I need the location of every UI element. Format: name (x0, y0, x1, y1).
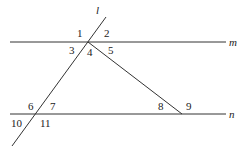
angle-label-10: 10 (11, 117, 23, 129)
geometry-diagram: l m n 1 2 3 4 5 6 7 8 9 10 11 (0, 0, 248, 149)
angle-label-8: 8 (158, 100, 164, 112)
line-l (12, 17, 106, 146)
angle-label-7: 7 (50, 100, 56, 112)
label-line-n: n (229, 108, 235, 120)
angle-label-11: 11 (40, 117, 51, 129)
angle-label-6: 6 (28, 100, 34, 112)
angle-label-3: 3 (69, 44, 75, 56)
label-line-m: m (229, 36, 237, 48)
angle-label-4: 4 (87, 46, 93, 58)
transversal-segment (88, 42, 182, 114)
label-line-l: l (96, 4, 99, 16)
angle-label-9: 9 (186, 100, 192, 112)
angle-label-5: 5 (108, 44, 114, 56)
angle-label-1: 1 (77, 27, 83, 39)
angle-label-2: 2 (104, 27, 110, 39)
